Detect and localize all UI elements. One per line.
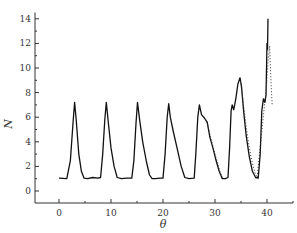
axes: 01020304002468101214 — [20, 13, 293, 219]
y-tick-label: 8 — [25, 88, 31, 98]
x-tick-label: 40 — [261, 208, 273, 218]
y-tick-label: 12 — [20, 38, 31, 48]
chart-container: 01020304002468101214 θ N — [0, 0, 297, 233]
x-tick-label: 0 — [56, 208, 62, 218]
x-tick-label: 10 — [105, 208, 117, 218]
y-axis-label: N — [2, 119, 15, 130]
dotted-series-line — [240, 46, 272, 178]
line-chart: 01020304002468101214 θ N — [0, 0, 297, 233]
y-tick-label: 6 — [25, 112, 31, 122]
y-tick-label: 4 — [25, 137, 31, 147]
x-tick-label: 20 — [157, 208, 169, 218]
y-tick-label: 2 — [25, 161, 31, 171]
y-tick-label: 10 — [20, 63, 32, 73]
x-tick-label: 30 — [209, 208, 221, 218]
solid-series-line — [59, 19, 268, 179]
y-tick-label: 0 — [25, 186, 31, 196]
x-axis-label: θ — [160, 218, 167, 231]
y-tick-label: 14 — [20, 14, 32, 24]
series-group — [59, 19, 272, 179]
